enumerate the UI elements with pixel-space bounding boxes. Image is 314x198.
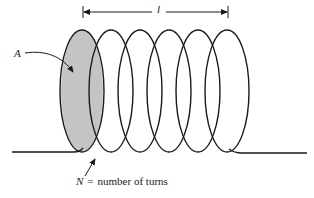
- turns-description: number of turns: [98, 175, 168, 187]
- lead-wire-right: [229, 149, 307, 153]
- turns-pointer-arrow: [85, 159, 95, 176]
- coil-turn-6: [205, 30, 249, 152]
- cross-section-area-fill: [61, 30, 103, 152]
- turns-label: N=number of turns: [76, 176, 168, 187]
- length-label: l: [155, 4, 162, 15]
- solenoid-figure: [0, 0, 314, 198]
- coil-turn-4: [147, 30, 191, 152]
- lead-wires: [12, 148, 307, 153]
- lead-wire-left: [12, 148, 83, 152]
- coil-turn-3: [118, 30, 162, 152]
- coil-turn-5: [176, 30, 220, 152]
- solenoid-diagram: l A N=number of turns: [0, 0, 314, 198]
- area-label: A: [14, 48, 21, 59]
- equals-sign: =: [83, 175, 97, 187]
